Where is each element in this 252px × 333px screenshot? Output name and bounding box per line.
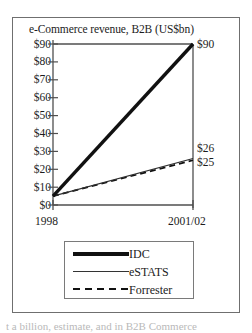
legend-label-idc: IDC (129, 248, 150, 260)
legend-swatch-estats-icon (73, 266, 129, 278)
caption-text-sliver: t a billion, estimate, and in B2B Commer… (6, 320, 246, 333)
x-tick-label-1998: 1998 (35, 216, 58, 228)
end-label-estats: $26 (197, 143, 214, 155)
legend-item-idc: IDC (65, 244, 193, 263)
series-line-idc (53, 44, 193, 196)
legend-swatch-forrester-icon (73, 284, 129, 296)
x-tick-label-2001-02: 2001/02 (168, 216, 206, 228)
end-label-idc: $90 (197, 39, 214, 51)
legend-label-forrester: Forrester (129, 284, 172, 296)
figure-frame: e-Commerce revenue, B2B (US$bn) $90 $80 … (12, 17, 240, 313)
legend-item-estats: eSTATS (65, 262, 193, 281)
series-line-estats (53, 159, 193, 197)
end-label-forrester: $25 (197, 157, 214, 169)
legend-label-estats: eSTATS (129, 266, 169, 278)
legend-item-forrester: Forrester (65, 280, 193, 299)
legend-swatch-idc-icon (73, 248, 129, 260)
chart-legend: IDC eSTATS Forrester (64, 241, 194, 299)
